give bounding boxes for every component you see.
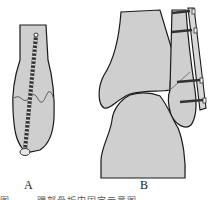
figure-caption: 图 …… 踝部骨折内固定示意图 <box>0 194 215 200</box>
fracture-fixation-illustration <box>0 0 215 200</box>
panel-b-label: B <box>140 178 148 193</box>
panel-a-label: A <box>24 178 33 193</box>
